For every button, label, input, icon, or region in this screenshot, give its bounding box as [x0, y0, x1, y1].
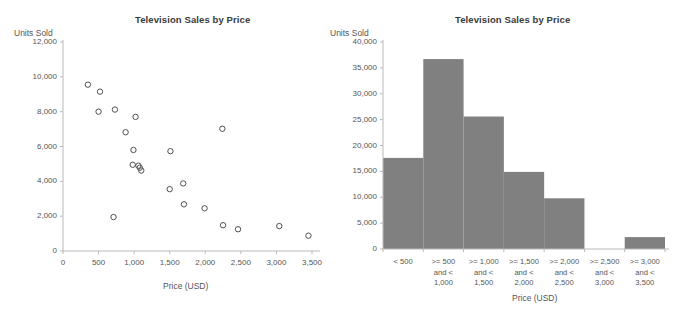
scatter-data-point [85, 82, 90, 87]
histogram-x-tick-label-line: and < [423, 268, 463, 279]
histogram-y-tick-label: 5,000 [320, 218, 377, 227]
scatter-data-point [123, 130, 128, 135]
scatter-x-axis-title: Price (USD) [163, 281, 208, 291]
histogram-y-tick-label: 20,000 [320, 141, 377, 150]
scatter-data-point [202, 206, 207, 211]
histogram-x-tick-label-line: < 500 [383, 257, 423, 268]
histogram-bar [464, 117, 504, 249]
scatter-y-tick-label: 6,000 [0, 142, 57, 151]
scatter-plot-area [0, 0, 340, 317]
histogram-x-tick-label-line: >= 3,000 [625, 257, 665, 268]
scatter-y-tick-label: 10,000 [0, 72, 57, 81]
histogram-y-tick-label: 10,000 [320, 192, 377, 201]
scatter-data-point [96, 109, 101, 114]
histogram-x-tick-label-line: >= 1,000 [464, 257, 504, 268]
histogram-x-tick-label: >= 2,500and <3,000 [584, 257, 624, 289]
histogram-chart-panel: Units Sold Television Sales by Price Pri… [320, 0, 681, 317]
scatter-y-tick-label: 4,000 [0, 176, 57, 185]
scatter-data-point [131, 147, 136, 152]
scatter-data-point [306, 233, 311, 238]
scatter-data-point [97, 89, 102, 94]
histogram-bar [504, 172, 544, 249]
scatter-y-tick-label: 0 [0, 246, 57, 255]
scatter-data-point [220, 126, 225, 131]
scatter-y-tick-label: 8,000 [0, 107, 57, 116]
histogram-x-tick-label-line: >= 2,000 [544, 257, 584, 268]
histogram-bar [423, 59, 463, 249]
histogram-y-tick-label: 15,000 [320, 166, 377, 175]
histogram-x-axis-title: Price (USD) [512, 293, 557, 303]
histogram-x-tick-label-line: and < [464, 268, 504, 279]
histogram-y-tick-label: 0 [320, 244, 377, 253]
histogram-x-tick-label-line: and < [584, 268, 624, 279]
histogram-x-tick-label-line: >= 1,500 [504, 257, 544, 268]
histogram-x-tick-label-line: >= 500 [423, 257, 463, 268]
scatter-data-point [111, 214, 116, 219]
scatter-data-point [181, 202, 186, 207]
histogram-x-tick-label-line: 1,000 [423, 278, 463, 289]
scatter-data-point [133, 114, 138, 119]
scatter-data-point [277, 223, 282, 228]
histogram-x-tick-label-line: 3,500 [625, 278, 665, 289]
histogram-bar [625, 237, 665, 249]
figure-container: Units Sold Television Sales by Price Pri… [0, 0, 681, 317]
histogram-y-tick-label: 25,000 [320, 115, 377, 124]
histogram-y-tick-label: 30,000 [320, 89, 377, 98]
histogram-x-tick-label: >= 500and <1,000 [423, 257, 463, 289]
histogram-x-tick-label-line: and < [544, 268, 584, 279]
histogram-x-tick-label-line: and < [504, 268, 544, 279]
histogram-y-tick-label: 35,000 [320, 63, 377, 72]
histogram-x-tick-label: >= 2,000and <2,500 [544, 257, 584, 289]
scatter-data-point [112, 107, 117, 112]
histogram-x-tick-label-line: >= 2,500 [584, 257, 624, 268]
scatter-chart-panel: Units Sold Television Sales by Price Pri… [0, 0, 340, 317]
scatter-data-point [235, 227, 240, 232]
scatter-y-tick-label: 2,000 [0, 211, 57, 220]
histogram-x-tick-label-line: 3,000 [584, 278, 624, 289]
histogram-y-tick-label: 40,000 [320, 37, 377, 46]
scatter-y-tick-label: 12,000 [0, 37, 57, 46]
histogram-x-tick-label: >= 3,000and <3,500 [625, 257, 665, 289]
histogram-x-tick-label: < 500 [383, 257, 423, 268]
scatter-data-point [130, 162, 135, 167]
histogram-bar [383, 158, 423, 249]
scatter-data-point [181, 181, 186, 186]
scatter-data-point [220, 223, 225, 228]
histogram-x-tick-label: >= 1,000and <1,500 [464, 257, 504, 289]
histogram-bar [544, 198, 584, 249]
histogram-x-tick-label-line: and < [625, 268, 665, 279]
histogram-x-tick-label-line: 1,500 [464, 278, 504, 289]
histogram-x-tick-label-line: 2,500 [544, 278, 584, 289]
scatter-data-point [167, 186, 172, 191]
histogram-x-tick-label: >= 1,500and <2,000 [504, 257, 544, 289]
scatter-data-point [168, 149, 173, 154]
histogram-x-tick-label-line: 2,000 [504, 278, 544, 289]
